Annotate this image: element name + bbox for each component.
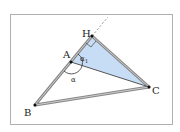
label-C: C: [152, 85, 160, 96]
label-alpha: α: [71, 76, 76, 84]
label-H: H: [82, 28, 91, 39]
label-A: A: [62, 49, 71, 60]
label-B: B: [24, 107, 31, 118]
point-A: [70, 61, 73, 64]
triangle-diagram: H A B C α α 1: [0, 0, 180, 132]
point-B: [34, 104, 37, 107]
frame: [11, 15, 173, 125]
point-C: [148, 86, 151, 89]
point-H: [91, 35, 94, 38]
label-alpha1-subscript: 1: [85, 58, 88, 64]
